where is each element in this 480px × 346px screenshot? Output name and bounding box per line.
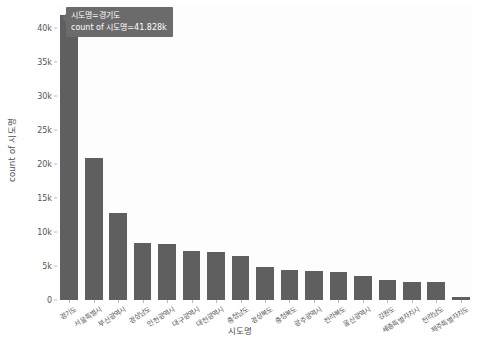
x-axis-tick-mark [265, 300, 266, 303]
y-axis-tick-mark [54, 27, 57, 28]
x-axis-tick-mark [387, 300, 388, 303]
bar[interactable] [354, 276, 372, 300]
x-axis-tick-mark [289, 300, 290, 303]
x-axis-tick-mark [338, 300, 339, 303]
bar[interactable] [85, 158, 103, 300]
x-axis-tick-mark [143, 300, 144, 303]
x-axis-tick-mark [167, 300, 168, 303]
bar[interactable] [403, 282, 421, 300]
y-axis-title: count of 시도명 [2, 0, 20, 300]
bar[interactable] [379, 280, 397, 300]
bar[interactable] [134, 243, 152, 300]
x-axis-tick-mark [363, 300, 364, 303]
bar[interactable] [330, 272, 348, 300]
x-axis-tick-mark [461, 300, 462, 303]
bar[interactable] [207, 252, 225, 300]
y-axis-tick-mark [54, 231, 57, 232]
bar[interactable] [232, 256, 250, 300]
tooltip-value: count of 시도명=41.828k [71, 22, 167, 34]
x-axis-tick-mark [436, 300, 437, 303]
x-axis-title: 시도명 [0, 324, 480, 336]
bar[interactable] [256, 267, 274, 300]
x-axis-tick-label[interactable]: 충청남도 [224, 304, 250, 325]
bar-chart-figure: count of 시도명 05k10k15k20k25k30k35k40k 경기… [0, 0, 480, 346]
y-axis-tick-mark [54, 163, 57, 164]
bar[interactable] [427, 282, 445, 300]
bar[interactable] [305, 271, 323, 300]
tooltip-category: 시도명=경기도 [71, 10, 167, 22]
bar[interactable] [281, 270, 299, 300]
x-axis-tick-mark [192, 300, 193, 303]
x-axis-tick-mark [412, 300, 413, 303]
x-axis-tick-mark [241, 300, 242, 303]
y-axis-tick-mark [54, 95, 57, 96]
x-axis-tick-mark [314, 300, 315, 303]
y-axis-tick-mark [54, 265, 57, 266]
bar[interactable] [158, 244, 176, 300]
x-axis-tick-labels: 경기도서울특별시부산광역시경상남도인천광역시대구광역시대전광역시충청남도경상북도… [57, 300, 473, 346]
bar[interactable] [183, 251, 201, 300]
y-axis-tick-mark [54, 61, 57, 62]
plot-area: 05k10k15k20k25k30k35k40k [57, 4, 473, 300]
x-axis-tick-label[interactable]: 경상북도 [248, 304, 274, 325]
x-axis-tick-mark [69, 300, 70, 303]
y-axis-tick-mark [54, 129, 57, 130]
x-axis-tick-mark [118, 300, 119, 303]
bar[interactable] [109, 213, 127, 300]
y-axis-tick-mark [54, 197, 57, 198]
bar[interactable] [60, 15, 78, 300]
x-axis-tick-mark [216, 300, 217, 303]
x-axis-tick-mark [94, 300, 95, 303]
y-axis-title-text: count of 시도명 [5, 118, 17, 182]
bar-tooltip: 시도명=경기도 count of 시도명=41.828k [66, 7, 173, 37]
